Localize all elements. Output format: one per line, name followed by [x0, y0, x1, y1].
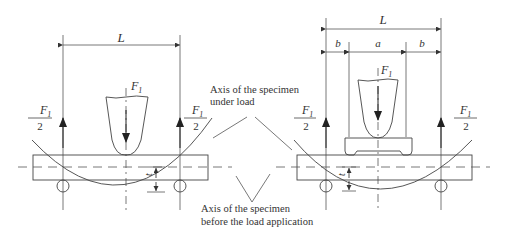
- svg-text:2: 2: [463, 120, 469, 132]
- specimen-beam: [33, 155, 208, 180]
- applied-force-label: F1: [380, 63, 392, 79]
- applied-force-label: F1: [130, 79, 142, 95]
- svg-text:F1: F1: [301, 103, 313, 119]
- span-label: L: [378, 12, 386, 27]
- left-reaction-label: F1 2: [294, 103, 316, 132]
- before-load-label-line2: before the load application: [201, 216, 314, 227]
- before-load-leader-right: [252, 174, 270, 202]
- deflection-label: t: [143, 173, 154, 176]
- three-point-bending-diagram: L F1 F1 2 F1 2: [18, 30, 232, 210]
- left-reaction-label: F1 2: [28, 103, 52, 132]
- under-load-leader-right: [255, 117, 292, 150]
- deflection-label: t: [336, 173, 347, 176]
- under-load-leader-left: [213, 117, 247, 138]
- svg-text:2: 2: [37, 120, 43, 132]
- four-point-bending-diagram: L b a b F1 F1 2 F1 2: [276, 12, 490, 210]
- svg-text:2: 2: [193, 120, 199, 132]
- under-load-label-line2: under load: [210, 96, 255, 107]
- bending-test-diagram: L F1 F1 2 F1 2: [0, 0, 505, 238]
- loading-nose: [106, 96, 148, 155]
- span-label: L: [116, 30, 124, 45]
- svg-text:F1: F1: [459, 103, 471, 119]
- svg-text:F1: F1: [39, 103, 51, 119]
- segment-a-label: a: [375, 37, 381, 49]
- right-reaction-label: F1 2: [184, 103, 207, 132]
- segment-b-right-label: b: [419, 37, 425, 49]
- before-load-leader-left: [236, 176, 252, 202]
- svg-text:2: 2: [303, 120, 309, 132]
- right-reaction-label: F1 2: [454, 103, 477, 132]
- before-load-label-line1: Axis of the specimen: [201, 203, 291, 214]
- svg-text:F1: F1: [191, 103, 203, 119]
- loading-fixture: [345, 138, 412, 155]
- segment-b-left-label: b: [335, 37, 341, 49]
- under-load-label-line1: Axis of the specimen: [210, 84, 300, 95]
- specimen-axis-under-load-curve: [32, 118, 212, 185]
